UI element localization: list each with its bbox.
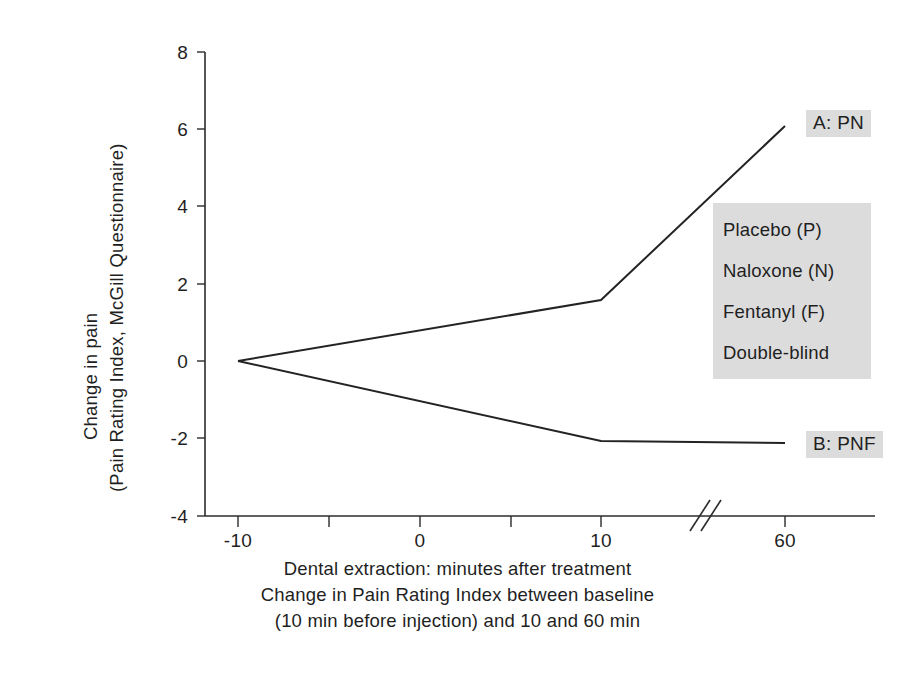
- y-axis-label-line1: Change in pain: [78, 313, 104, 440]
- chart-caption: Dental extraction: minutes after treatme…: [0, 556, 915, 634]
- x-tick-label: 60: [774, 530, 796, 551]
- series-line-a-pn: [238, 126, 785, 361]
- y-tick-label: -2: [171, 428, 189, 449]
- y-tick-label: -4: [171, 506, 189, 527]
- y-tick-label: 4: [177, 196, 188, 217]
- x-tick-label: 0: [415, 530, 426, 551]
- y-tick-labels: 8 6 4 2 0 -2 -4: [171, 42, 189, 527]
- y-axis-ticks: [197, 52, 205, 516]
- x-tick-label: 10: [590, 530, 612, 551]
- legend-item-placebo: Placebo (P): [723, 219, 871, 241]
- caption-line-2: Change in Pain Rating Index between base…: [0, 582, 915, 608]
- legend-item-naloxone: Naloxone (N): [723, 260, 871, 282]
- y-tick-label: 0: [177, 351, 188, 372]
- x-tick-labels: -10 0 10 60: [224, 530, 796, 551]
- y-axis-label-line2: (Pain Rating Index, McGill Questionnaire…: [104, 143, 130, 492]
- series-label-b-pnf: B: PNF: [806, 431, 883, 458]
- x-tick-label: -10: [224, 530, 252, 551]
- figure-container: 8 6 4 2 0 -2 -4 -10 0 10 60: [0, 0, 915, 684]
- caption-line-1: Dental extraction: minutes after treatme…: [0, 556, 915, 582]
- series-line-b-pnf: [238, 361, 785, 443]
- x-axis-ticks: [238, 516, 785, 527]
- y-tick-label: 8: [177, 42, 188, 63]
- y-tick-label: 2: [177, 274, 188, 295]
- y-tick-label: 6: [177, 119, 188, 140]
- legend-box: Placebo (P) Naloxone (N) Fentanyl (F) Do…: [713, 203, 871, 379]
- legend-item-double-blind: Double-blind: [723, 342, 871, 364]
- series-label-a-pn: A: PN: [806, 110, 871, 137]
- caption-line-3: (10 min before injection) and 10 and 60 …: [0, 608, 915, 634]
- legend-item-fentanyl: Fentanyl (F): [723, 301, 871, 323]
